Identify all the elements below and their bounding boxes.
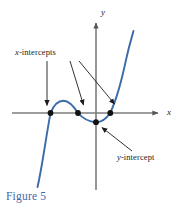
x-intercepts-label-word: intercepts	[22, 47, 56, 57]
y-intercept-label-word: intercept	[124, 152, 155, 162]
marker-y-intercept	[93, 119, 99, 125]
y-intercept-leader-arrow	[102, 128, 132, 152]
y-axis-label: y	[101, 8, 105, 17]
graph-canvas	[0, 0, 189, 210]
x-intercept-leader-arrows	[47, 61, 115, 106]
figure-container: y x x-intercepts y-intercept Figure 5	[0, 0, 189, 210]
marker-x-intercept-2	[75, 110, 81, 116]
leader-arrow-y	[102, 128, 132, 152]
marker-x-intercept-3	[107, 110, 113, 116]
y-intercept-label: y-intercept	[117, 153, 154, 162]
x-axis-label: x	[167, 108, 171, 117]
x-intercepts-label: x-intercepts	[15, 48, 56, 57]
figure-caption: Figure 5	[6, 190, 46, 202]
marker-x-intercept-1	[48, 110, 54, 116]
leader-arrow-x2	[70, 61, 84, 105]
